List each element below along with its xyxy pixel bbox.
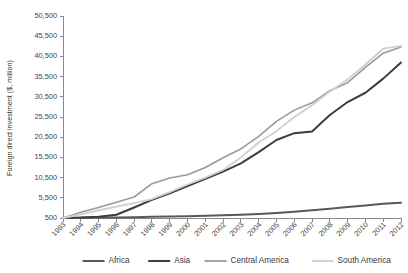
y-axis-title: Foreign direct investment ($, million) (5, 60, 14, 176)
line-chart: Foreign direct investment ($, million) 5… (0, 0, 408, 273)
legend-label-asia: Asia (174, 256, 190, 265)
x-tick-label: 2003 (228, 220, 246, 238)
series-line-south-america (63, 46, 401, 218)
y-tick-label: 10,500 (34, 173, 57, 182)
y-tick-label: 25,500 (34, 112, 57, 121)
x-axis-ticks: 1993199419951996199719981999200020012002… (50, 218, 406, 238)
y-tick-label: 20,500 (34, 132, 57, 141)
series-lines (63, 46, 401, 218)
x-tick-label: 1998 (139, 220, 157, 238)
series-line-central-america (63, 47, 401, 218)
x-tick-label: 2005 (263, 220, 281, 238)
chart-container: Foreign direct investment ($, million) 5… (0, 0, 408, 273)
x-tick-label: 2008 (316, 220, 334, 238)
y-tick-label: 5,500 (39, 193, 58, 202)
legend-label-south-america: South America (338, 256, 392, 265)
y-tick-label: 35,500 (34, 72, 57, 81)
x-tick-label: 1993 (50, 220, 68, 238)
x-tick-label: 2006 (281, 220, 299, 238)
x-tick-label: 2009 (334, 220, 352, 238)
y-tick-label: 50,500 (34, 11, 57, 20)
x-tick-label: 2000 (174, 220, 192, 238)
x-tick-label: 1995 (85, 220, 103, 238)
x-tick-label: 2010 (352, 220, 370, 238)
y-axis-ticks: 5005,50010,50015,50020,50025,50030,50035… (34, 11, 63, 222)
x-tick-label: 2004 (245, 220, 263, 238)
chart-legend: AfricaAsiaCentral AmericaSouth America (83, 256, 392, 265)
x-tick-label: 2002 (210, 220, 228, 238)
y-axis-title-text: Foreign direct investment ($, million) (5, 60, 14, 176)
legend-label-africa: Africa (109, 256, 130, 265)
x-tick-label: 2001 (192, 220, 210, 238)
x-tick-label: 2012 (388, 220, 406, 238)
y-tick-label: 30,500 (34, 92, 57, 101)
legend-label-central-america: Central America (231, 256, 290, 265)
y-tick-label: 15,500 (34, 152, 57, 161)
x-tick-label: 1994 (67, 220, 85, 238)
x-tick-label: 2007 (299, 220, 317, 238)
x-tick-label: 2011 (370, 220, 388, 238)
y-tick-label: 40,500 (34, 51, 57, 60)
x-tick-label: 1999 (156, 220, 174, 238)
x-tick-label: 1996 (103, 220, 121, 238)
y-tick-label: 500 (45, 213, 57, 222)
y-tick-label: 45,500 (34, 31, 57, 40)
x-tick-label: 1997 (121, 220, 139, 238)
series-line-asia (63, 62, 401, 218)
